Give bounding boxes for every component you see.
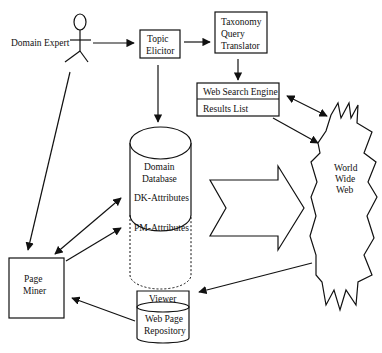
svg-text:Wide: Wide: [335, 174, 355, 184]
results-list-label: Results List: [203, 104, 248, 114]
block-arrow-database-to-www: [210, 166, 304, 250]
dk-attributes-label: DK-Attributes: [134, 193, 189, 203]
web-search-engine-label: Web Search Engine: [203, 87, 278, 97]
svg-text:Elicitor: Elicitor: [146, 46, 175, 56]
taxonomy-query-translator-box: Taxonomy Query Translator: [215, 12, 267, 53]
svg-text:Page: Page: [24, 274, 42, 284]
architecture-diagram: Domain Expert Topic Elicitor Taxonomy Qu…: [0, 0, 382, 353]
viewer-label: Viewer: [149, 294, 177, 304]
domain-expert-label: Domain Expert: [11, 38, 70, 48]
actor-head-icon: [74, 14, 86, 30]
svg-text:Query: Query: [221, 29, 245, 39]
arrow-repository-to-page-miner: [72, 298, 135, 321]
domain-database-cylinder: Domain Database DK-Attributes PM-Attribu…: [130, 127, 191, 289]
page-miner-box: Page Miner: [9, 258, 64, 318]
svg-text:Database: Database: [142, 174, 177, 184]
arrow-results-to-www: [273, 118, 318, 143]
web-page-repository-cylinder: Viewer Web Page Repository: [137, 291, 189, 343]
svg-text:Taxonomy: Taxonomy: [221, 17, 262, 27]
arrow-page-miner-dk-attributes: [55, 198, 121, 254]
svg-text:Repository: Repository: [144, 326, 186, 336]
svg-text:Web: Web: [336, 185, 353, 195]
world-wide-web-starburst: World Wide Web: [310, 103, 377, 310]
topic-elicitor-box: Topic Elicitor: [140, 30, 180, 58]
arrow-page-miner-to-pm-attributes: [66, 228, 121, 261]
arrow-search-engine-www: [287, 96, 327, 116]
svg-text:Translator: Translator: [221, 41, 261, 51]
svg-text:Web Page: Web Page: [145, 314, 183, 324]
svg-text:Topic: Topic: [147, 34, 169, 44]
arrow-www-to-viewer: [199, 263, 312, 292]
domain-expert-actor: Domain Expert: [11, 14, 91, 62]
web-search-engine-box: Web Search Engine Results List: [197, 83, 279, 116]
pm-attributes-label: PM-Attributes: [134, 223, 189, 233]
arrow-expert-to-page-miner: [28, 72, 70, 250]
svg-text:Miner: Miner: [23, 286, 47, 296]
svg-text:World: World: [334, 163, 358, 173]
svg-text:Domain: Domain: [144, 162, 175, 172]
